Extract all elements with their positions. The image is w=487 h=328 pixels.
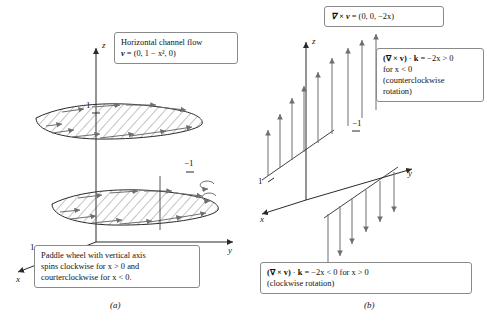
callout-counterclockwise: (∇ × v) · k = −2x > 0 for x < 0 (counter…: [376, 48, 484, 102]
curl-expression: = (0, 0, −2x): [350, 12, 394, 21]
callout-clockwise: (∇ × v) · k = −2x < 0 for x > 0 (clockwi…: [260, 262, 472, 294]
paddle-line-2: spins clockwise for x > 0 and: [41, 261, 193, 272]
callout-line-2: v = (0, 1 − x², 0): [121, 48, 231, 59]
ccw-line-1: (∇ × v) · k = −2x > 0: [383, 53, 477, 64]
axis-label-x-a: x: [16, 274, 20, 284]
axis-label-y-b: y: [408, 168, 412, 178]
ccw-expression: = −2x > 0: [418, 54, 453, 63]
cw-line-2: (clockwise rotation): [267, 278, 465, 289]
panel-b: z y x −1 1 ∇ × v = (0, 0, −2x) (∇ × v) ·…: [248, 0, 487, 328]
rotation-curl-icons: [200, 181, 216, 201]
figure-root: z y x 1 1 −1 Horizontal channel flow v =…: [0, 0, 487, 328]
ccw-line-3: (counterclockwise: [383, 75, 477, 86]
caption-panel-b: (b): [364, 300, 375, 310]
cw-dot: ·: [291, 268, 298, 277]
panel-a: z y x 1 1 −1 Horizontal channel flow v =…: [0, 0, 248, 328]
tick-neg-one-b: −1: [352, 118, 362, 128]
callout-line-1: Horizontal channel flow: [121, 37, 231, 48]
plane-line-left: [262, 130, 334, 180]
cw-expression: = −2x < 0 for x > 0: [302, 268, 368, 277]
tick-x-one-b: 1: [258, 176, 263, 186]
paddle-line-1: Paddle wheel with vertical axis: [41, 250, 193, 261]
x-axis-b: [262, 200, 306, 214]
cw-line-1: (∇ × v) · k = −2x < 0 for x > 0: [267, 267, 465, 278]
ccw-dot: ·: [407, 54, 414, 63]
callout-curl-definition: ∇ × v = (0, 0, −2x): [324, 6, 444, 27]
plane-line-right: [324, 167, 398, 218]
axis-label-x-b: x: [260, 214, 264, 224]
axis-label-z-b: z: [312, 36, 316, 46]
curl-symbol: ∇ × v: [331, 12, 350, 21]
axis-label-y-a: y: [228, 245, 232, 255]
callout-paddle-wheel: Paddle wheel with vertical axis spins cl…: [34, 245, 200, 288]
axis-label-z-a: z: [102, 40, 106, 50]
curl-vectors-down: [328, 172, 394, 268]
tick-neg-one-a: −1: [184, 158, 194, 168]
ccw-line-2: for x < 0: [383, 64, 477, 75]
y-axis-b: [306, 169, 412, 200]
curl-vectors-up: [268, 34, 376, 176]
curl-paren-symbol: (∇ × v): [383, 54, 407, 63]
paddle-line-3: courterclockwise for x < 0.: [41, 272, 193, 283]
caption-panel-a: (a): [110, 300, 121, 310]
callout-horizontal-channel-flow: Horizontal channel flow v = (0, 1 − x², …: [114, 32, 238, 64]
curl-paren-symbol-2: (∇ × v): [267, 268, 291, 277]
ccw-line-4: rotation): [383, 86, 477, 97]
tick-z-one-a: 1: [86, 100, 91, 110]
vector-v-expression: = (0, 1 − x², 0): [125, 49, 176, 58]
